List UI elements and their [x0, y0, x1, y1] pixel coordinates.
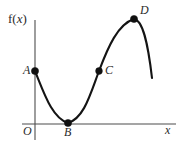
point-label-a: A — [23, 64, 30, 76]
y-axis-label-suffix: ) — [22, 11, 26, 26]
point-marker-a — [31, 67, 38, 74]
origin-label: O — [23, 125, 32, 137]
y-axis-label: f(x) — [8, 12, 27, 25]
function-graph-figure: f(x) O x A B C D — [0, 0, 182, 143]
point-marker-d — [130, 15, 137, 22]
point-label-d: D — [140, 4, 149, 16]
y-axis-label-prefix: f( — [8, 11, 17, 26]
point-marker-c — [96, 68, 103, 75]
function-curve — [35, 19, 152, 123]
point-label-b: B — [64, 126, 71, 138]
x-axis-label: x — [165, 124, 170, 136]
point-label-c: C — [105, 64, 113, 76]
